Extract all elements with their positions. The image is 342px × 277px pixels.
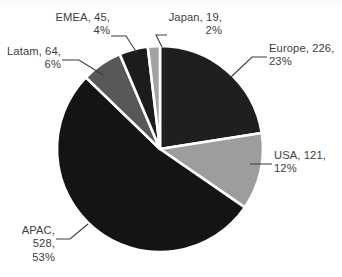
pie-label-emea: EMEA, 45, 4% — [42, 11, 110, 38]
pie-label-latam: Latam, 64, 6% — [2, 45, 61, 72]
leader-line-apac — [56, 224, 88, 239]
pie-label-europe: Europe, 226, 23% — [269, 42, 341, 69]
pie-label-apac: APAC, 528, 53% — [0, 224, 55, 264]
pie-slices — [57, 46, 263, 252]
pie-chart-figure: Europe, 226, 23% USA, 121, 12% APAC, 528… — [0, 0, 342, 277]
leader-line-europe — [231, 57, 267, 77]
pie-label-usa: USA, 121, 12% — [274, 149, 342, 176]
pie-label-japan: Japan, 19, 2% — [160, 11, 222, 38]
pie-slice-europe[interactable] — [160, 46, 262, 149]
